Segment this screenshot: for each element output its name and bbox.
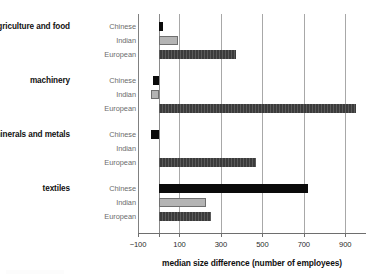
bar-textiles-indian: [159, 198, 207, 207]
gridline-700: [304, 14, 305, 233]
tick-100: [179, 233, 180, 237]
bar-minerals-and-metals-chinese: [151, 130, 158, 139]
tick-label-100: 100: [173, 240, 185, 249]
series-label-textiles-indian: Indian: [46, 198, 136, 207]
footer-artifact: [6, 270, 64, 274]
bar-machinery-chinese: [153, 76, 159, 85]
tick-zero: [159, 233, 160, 237]
gridline-500: [262, 14, 263, 233]
bar-minerals-and-metals-european: [159, 158, 256, 167]
tick-300: [221, 233, 222, 237]
bar-chart: agriculture and food machinery minerals …: [0, 0, 378, 278]
tick-700: [304, 233, 305, 237]
bar-textiles-european: [159, 212, 211, 221]
series-label-agriculture-european: European: [46, 50, 136, 59]
series-label-textiles-european: European: [46, 212, 136, 221]
series-label-machinery-european: European: [46, 104, 136, 113]
bar-agriculture-and-food-european: [159, 50, 237, 59]
series-label-machinery-chinese: Chinese: [46, 76, 136, 85]
tick-label-500: 500: [256, 240, 268, 249]
bar-textiles-chinese: [159, 184, 308, 193]
bar-agriculture-and-food-indian: [159, 36, 179, 45]
series-label-agriculture-chinese: Chinese: [46, 22, 136, 31]
tick-label--100: −100: [130, 240, 147, 249]
gridline-300: [221, 14, 222, 233]
tick-label-700: 700: [298, 240, 310, 249]
gridline-900: [345, 14, 346, 233]
tick--100: [138, 233, 139, 237]
bar-machinery-european: [159, 104, 356, 113]
series-label-agriculture-indian: Indian: [46, 36, 136, 45]
plot-area: −100100300500700900: [138, 14, 366, 233]
series-label-minerals-european: European: [46, 158, 136, 167]
series-label-minerals-chinese: Chinese: [46, 130, 136, 139]
tick-500: [262, 233, 263, 237]
tick-900: [345, 233, 346, 237]
bar-machinery-indian: [151, 90, 158, 99]
series-label-textiles-chinese: Chinese: [46, 184, 136, 193]
x-axis-title: median size difference (number of employ…: [138, 258, 366, 268]
series-label-minerals-indian: Indian: [46, 144, 136, 153]
bar-agriculture-and-food-chinese: [159, 22, 163, 31]
tick-label-900: 900: [339, 240, 351, 249]
series-label-machinery-indian: Indian: [46, 90, 136, 99]
x-axis-line: [138, 233, 366, 234]
tick-label-300: 300: [215, 240, 227, 249]
y-axis-line: [138, 14, 139, 233]
